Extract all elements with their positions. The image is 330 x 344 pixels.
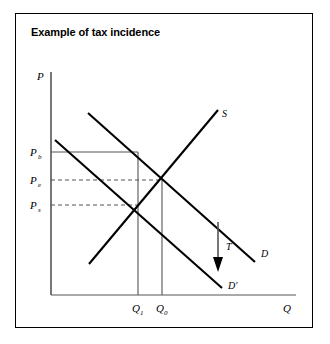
demand-shifted-curve-label: D′ xyxy=(227,280,238,291)
tax-arrow-head xyxy=(213,257,223,272)
y-tick-ps-base: P xyxy=(29,199,37,211)
y-tick-pe-base: P xyxy=(29,174,37,186)
y-tick-pb-base: P xyxy=(29,146,37,158)
x-tick-q0-sub: 0 xyxy=(164,309,168,317)
y-axis-label: P xyxy=(36,70,44,82)
x-tick-q1-sub: 1 xyxy=(140,309,144,317)
y-tick-pb-sub: b xyxy=(38,153,42,161)
demand-curve-label: D xyxy=(260,248,269,259)
supply-curve-label: S xyxy=(222,108,227,119)
x-axis-label: Q xyxy=(283,302,291,314)
y-tick-pe-sub: e xyxy=(38,181,41,189)
demand-curve xyxy=(88,113,255,262)
x-tick-q1-base: Q xyxy=(132,302,140,314)
x-tick-q0-base: Q xyxy=(156,302,164,314)
y-tick-ps-sub: s xyxy=(38,206,41,214)
tax-incidence-chart: P Q P b P e P s Q 1 Q 0 S D D′ T xyxy=(0,0,330,344)
